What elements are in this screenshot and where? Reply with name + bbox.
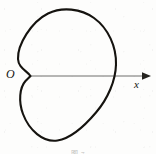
x-axis-arrowhead bbox=[142, 72, 151, 80]
cardioid-figure: O x 图 7 bbox=[0, 0, 156, 154]
figure-caption: 图 7 bbox=[0, 148, 156, 154]
cardioid-plot-svg bbox=[0, 0, 156, 154]
x-axis-label: x bbox=[134, 79, 139, 90]
origin-label: O bbox=[6, 68, 15, 80]
cardioid-curve-path bbox=[18, 9, 116, 140]
